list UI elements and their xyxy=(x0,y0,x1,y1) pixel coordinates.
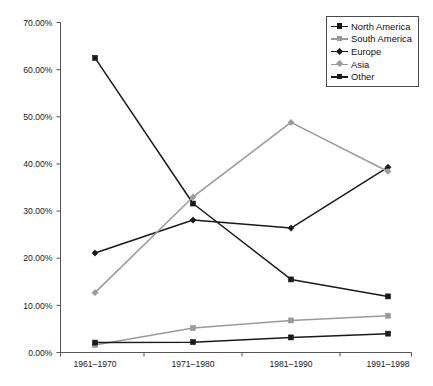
legend-item-label: Europe xyxy=(351,46,381,57)
legend-item-label: Other xyxy=(351,71,374,82)
data-point-marker xyxy=(92,250,98,256)
data-point-marker xyxy=(191,340,196,345)
series-line xyxy=(95,316,388,345)
y-tick-label: 30.00% xyxy=(23,206,53,216)
legend-item-asia[interactable]: Asia xyxy=(331,58,412,71)
legend-item-other[interactable]: Other xyxy=(331,70,412,83)
series-line xyxy=(95,122,388,292)
legend-item-label: North America xyxy=(351,21,410,32)
legend-item-south-america[interactable]: South America xyxy=(331,33,412,46)
x-tick-label: 1981–1990 xyxy=(269,359,312,369)
data-point-marker xyxy=(190,217,196,223)
x-tick-label: 1961–1970 xyxy=(73,359,116,369)
y-tick-label: 70.00% xyxy=(23,18,53,28)
legend-marker-icon xyxy=(331,59,348,70)
legend-marker-icon xyxy=(331,46,348,57)
x-tick-labels: 1961–19701971–19801981–19901991–1998 xyxy=(73,359,409,369)
y-tick-label: 60.00% xyxy=(23,65,53,75)
series-line xyxy=(95,334,388,343)
legend-item-label: South America xyxy=(351,33,412,44)
data-point-marker xyxy=(289,335,294,340)
y-tick-label: 40.00% xyxy=(23,159,53,169)
legend-item-north-america[interactable]: North America xyxy=(331,20,412,33)
series-layer xyxy=(92,55,391,347)
series-line xyxy=(95,58,388,297)
legend-item-label: Asia xyxy=(351,59,369,70)
data-point-marker xyxy=(289,277,294,282)
series-north-america xyxy=(93,55,391,299)
legend-marker-icon xyxy=(331,21,348,32)
legend-item-europe[interactable]: Europe xyxy=(331,45,412,58)
series-asia xyxy=(92,119,391,295)
data-point-marker xyxy=(289,318,294,323)
y-tick-label: 0.00% xyxy=(28,348,53,358)
data-point-marker xyxy=(386,294,391,299)
legend-marker-icon xyxy=(331,33,348,44)
chart-legend: North AmericaSouth AmericaEuropeAsiaOthe… xyxy=(326,16,419,87)
data-point-marker xyxy=(93,340,98,345)
data-point-marker xyxy=(386,331,391,336)
legend-marker-icon xyxy=(331,71,348,82)
data-point-marker xyxy=(93,55,98,60)
series-europe xyxy=(92,164,391,256)
y-tick-labels: 0.00%10.00%20.00%30.00%40.00%50.00%60.00… xyxy=(23,18,53,358)
y-tick-label: 10.00% xyxy=(23,301,53,311)
data-point-marker xyxy=(191,325,196,330)
y-tick-label: 50.00% xyxy=(23,112,53,122)
x-tick-label: 1971–1980 xyxy=(171,359,214,369)
x-tick-label: 1991–1998 xyxy=(366,359,409,369)
data-point-marker xyxy=(386,313,391,318)
data-point-marker xyxy=(191,201,196,206)
line-chart: 0.00%10.00%20.00%30.00%40.00%50.00%60.00… xyxy=(0,0,433,386)
y-tick-label: 20.00% xyxy=(23,253,53,263)
